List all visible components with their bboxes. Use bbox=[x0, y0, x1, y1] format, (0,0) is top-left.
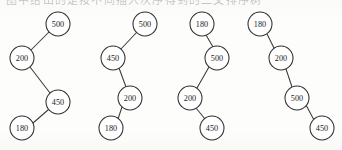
tree-edge-200-to-500 bbox=[286, 69, 292, 87]
node-label: 450 bbox=[107, 54, 120, 63]
tree-node: 450 bbox=[310, 116, 334, 140]
tree-node: 200 bbox=[118, 86, 142, 110]
node-label: 450 bbox=[206, 124, 219, 133]
tree-node: 200 bbox=[10, 46, 34, 70]
trees-layer: 5002004501805004502001801805002004501802… bbox=[10, 12, 334, 140]
tree-edge-200-to-450 bbox=[30, 67, 50, 93]
tree-node: 180 bbox=[190, 12, 214, 36]
tree-edge-500-to-200 bbox=[31, 32, 49, 50]
bst-figure: 图中给出的是按不同插入次序得到的二叉排序树 500200450180500450… bbox=[0, 0, 342, 150]
tree-node: 450 bbox=[101, 46, 125, 70]
tree-node: 180 bbox=[248, 12, 272, 36]
node-label: 180 bbox=[105, 124, 118, 133]
node-label: 500 bbox=[291, 94, 304, 103]
tree-edge-180-to-200 bbox=[267, 34, 274, 48]
node-label: 180 bbox=[196, 20, 209, 29]
tree-node: 450 bbox=[200, 116, 224, 140]
node-label: 500 bbox=[52, 20, 65, 29]
tree-node: 200 bbox=[178, 86, 202, 110]
bst-tree-2: 500450200180 bbox=[99, 12, 157, 140]
bst-tree-1: 500200450180 bbox=[10, 12, 70, 140]
node-label: 450 bbox=[316, 124, 329, 133]
node-label: 450 bbox=[52, 98, 65, 107]
node-label: 180 bbox=[16, 124, 29, 133]
node-label: 200 bbox=[124, 94, 137, 103]
node-label: 200 bbox=[16, 54, 29, 63]
tree-edge-500-to-200 bbox=[197, 67, 209, 88]
tree-node: 180 bbox=[10, 116, 34, 140]
tree-node: 500 bbox=[285, 86, 309, 110]
tree-node: 450 bbox=[46, 90, 70, 114]
tree-node: 500 bbox=[205, 46, 229, 70]
bst-diagram-canvas: 5002004501805004502001801805002004501802… bbox=[0, 0, 342, 150]
tree-edge-500-to-450 bbox=[121, 32, 137, 49]
bst-tree-3: 180500200450 bbox=[178, 12, 229, 140]
node-label: 200 bbox=[275, 54, 288, 63]
tree-edge-450-to-200 bbox=[119, 68, 126, 87]
node-label: 500 bbox=[211, 54, 224, 63]
bst-tree-4: 180200500450 bbox=[248, 12, 334, 140]
tree-edge-180-to-500 bbox=[206, 35, 213, 47]
tree-node: 180 bbox=[99, 116, 123, 140]
tree-edge-500-to-450 bbox=[306, 105, 314, 120]
tree-node: 500 bbox=[46, 12, 70, 36]
tree-edge-200-to-450 bbox=[196, 108, 205, 119]
tree-node: 200 bbox=[269, 46, 293, 70]
tree-edge-450-to-180 bbox=[33, 110, 48, 123]
tree-edge-200-to-180 bbox=[118, 107, 122, 119]
node-label: 180 bbox=[254, 20, 267, 29]
tree-node: 500 bbox=[133, 12, 157, 36]
node-label: 200 bbox=[184, 94, 197, 103]
node-label: 500 bbox=[139, 20, 152, 29]
